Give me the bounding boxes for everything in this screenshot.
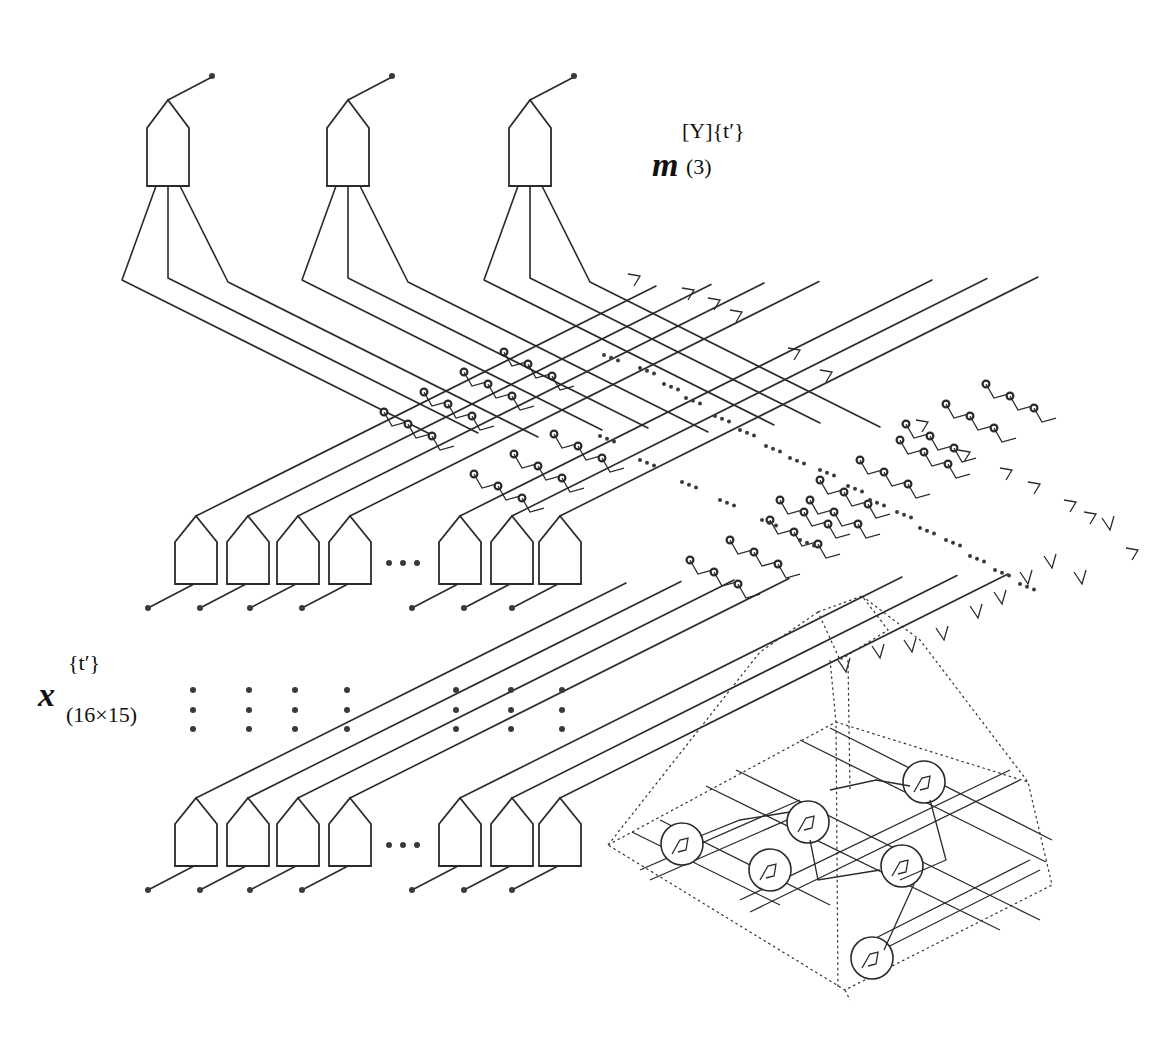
ellipsis-dot-icon — [400, 842, 406, 848]
ellipsis-dot-icon — [832, 474, 836, 478]
ellipsis-dot-icon — [386, 842, 392, 848]
pentagon-unit-icon — [329, 516, 371, 584]
magnified-node-icon — [881, 845, 923, 887]
ellipsis-dot-icon — [559, 687, 565, 693]
ellipsis-dot-icon — [918, 526, 922, 530]
ellipsis-dot-icon — [676, 388, 680, 392]
ellipsis-dot-icon — [802, 462, 806, 466]
pentagon-unit-icon — [509, 100, 551, 186]
ellipsis-dot-icon — [944, 538, 948, 542]
ellipsis-dot-icon — [687, 483, 691, 487]
ellipsis-dot-icon — [292, 726, 298, 732]
ellipsis-dot-icon — [559, 726, 565, 732]
terminal-fork-icon — [904, 638, 916, 652]
ellipsis-dot-icon — [795, 459, 799, 463]
terminal-dot-icon — [197, 605, 203, 611]
terminal-fork-icon — [936, 626, 948, 640]
ellipsis-dot-icon — [1025, 585, 1029, 589]
output-superscript: [Y]{t′} — [682, 118, 745, 144]
terminal-dot-icon — [461, 605, 467, 611]
ellipsis-dot-icon — [925, 529, 929, 533]
arrow-head-icon — [1064, 500, 1076, 512]
ellipsis-dot-icon — [616, 359, 620, 363]
ellipsis-dot-icon — [669, 385, 673, 389]
input-label: {t′} x (16×15) — [38, 644, 198, 744]
ellipsis-dot-icon — [694, 486, 698, 490]
ellipsis-dot-icon — [875, 501, 879, 505]
pentagon-unit-icon — [539, 516, 581, 584]
ellipsis-dot-icon — [902, 513, 906, 517]
ellipsis-dot-icon — [246, 687, 252, 693]
arrow-head-icon — [1000, 468, 1012, 480]
terminal-dot-icon — [247, 605, 253, 611]
pentagon-unit-icon — [491, 798, 533, 866]
ellipsis-dot-icon — [825, 471, 829, 475]
pentagon-unit-icon — [175, 798, 217, 866]
output-units — [147, 73, 577, 186]
pentagon-unit-icon — [227, 516, 269, 584]
ellipsis-dot-icon — [764, 444, 768, 448]
pentagon-unit-icon — [277, 516, 319, 584]
magnified-node-icon — [787, 801, 829, 843]
terminal-fork-icon — [970, 604, 982, 618]
pentagon-unit-icon — [439, 516, 481, 584]
terminal-dot-icon — [409, 605, 415, 611]
terminal-dot-icon — [389, 73, 395, 79]
network-diagram — [0, 0, 1172, 1044]
ellipsis-dot-icon — [895, 510, 899, 514]
arrow-head-icon — [1126, 548, 1138, 560]
ellipsis-dot-icon — [609, 356, 613, 360]
ellipsis-dot-icon — [612, 440, 616, 444]
ellipsis-dot-icon — [453, 687, 459, 693]
ellipsis-dot-icon — [453, 707, 459, 713]
terminal-fork-icon — [872, 644, 884, 658]
terminal-fork-icon — [994, 590, 1006, 604]
input-row-1 — [145, 516, 581, 611]
ellipsis-dot-icon — [882, 504, 886, 508]
ellipsis-dot-icon — [453, 726, 459, 732]
terminal-dot-icon — [197, 887, 203, 893]
ellipsis-dot-icon — [860, 490, 864, 494]
ellipsis-dot-icon — [771, 447, 775, 451]
arrow-head-icon — [628, 274, 640, 286]
ellipsis-dot-icon — [788, 456, 792, 460]
terminal-dot-icon — [145, 605, 151, 611]
ellipsis-dot-icon — [752, 434, 756, 438]
crossbar-wires — [122, 186, 1038, 798]
ellipsis-dot-icon — [760, 518, 764, 522]
ellipsis-dot-icon — [508, 726, 514, 732]
ellipsis-dot-icon — [958, 544, 962, 548]
ellipsis-dot-icon — [853, 487, 857, 491]
ellipsis-dot-icon — [720, 417, 724, 421]
ellipsis-dot-icon — [414, 560, 420, 566]
ellipsis-dot-icon — [713, 414, 717, 418]
terminal-dot-icon — [145, 887, 151, 893]
ellipsis-dot-icon — [745, 431, 749, 435]
terminal-fork-icon — [1102, 516, 1114, 530]
ellipsis-dot-icon — [400, 560, 406, 566]
pentagon-unit-icon — [227, 798, 269, 866]
output-subscript: (3) — [686, 154, 712, 180]
ellipsis-dot-icon — [774, 524, 778, 528]
input-row-2 — [145, 798, 581, 893]
terminal-fork-icon — [1074, 570, 1086, 584]
ellipsis-dot-icon — [344, 687, 350, 693]
ellipsis-dot-icon — [605, 437, 609, 441]
ellipsis-dot-icon — [767, 521, 771, 525]
ellipsis-dot-icon — [292, 687, 298, 693]
ellipsis-dot-icon — [598, 434, 602, 438]
ellipsis-dot-icon — [344, 726, 350, 732]
ellipsis-dot-icon — [975, 557, 979, 561]
terminal-dot-icon — [571, 73, 577, 79]
ellipsis-dot-icon — [652, 372, 656, 376]
terminal-dot-icon — [209, 73, 215, 79]
ellipsis-dot-icon — [638, 366, 642, 370]
ellipsis-dot-icon — [1018, 582, 1022, 586]
ellipsis-dot-icon — [1007, 574, 1011, 578]
terminal-dot-icon — [299, 887, 305, 893]
magnified-node-icon — [903, 761, 945, 803]
ellipsis-dot-icon — [344, 707, 350, 713]
ellipsis-dot-icon — [968, 554, 972, 558]
output-label: m [Y]{t′} (3) — [652, 118, 792, 188]
magnified-node-icon — [749, 849, 791, 891]
